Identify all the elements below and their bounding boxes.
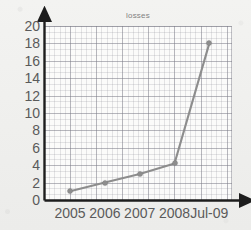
data-point-marker — [68, 189, 73, 194]
x-tick-label: Jul-09 — [190, 205, 228, 221]
x-tick-label: 2006 — [89, 205, 120, 221]
y-tick-label: 16 — [6, 53, 40, 69]
losses-line-chart: losses 20181614121086420 200520062007200… — [0, 0, 251, 230]
x-tick-label: 2005 — [55, 205, 86, 221]
y-tick-label: 20 — [6, 18, 40, 34]
y-tick-label: 0 — [6, 192, 40, 208]
x-tick-label: 2008 — [159, 205, 190, 221]
x-tick-label: 2007 — [124, 205, 155, 221]
data-point-marker — [102, 180, 107, 185]
y-tick-label: 8 — [6, 122, 40, 138]
chart-title: losses — [44, 11, 232, 20]
data-point-marker — [207, 41, 212, 46]
y-tick-label: 4 — [6, 157, 40, 173]
y-tick-label: 18 — [6, 35, 40, 51]
data-point-marker — [172, 161, 177, 166]
data-point-marker — [137, 171, 142, 176]
losses-data-points — [44, 26, 232, 200]
y-tick-label: 6 — [6, 140, 40, 156]
y-tick-label: 10 — [6, 105, 40, 121]
y-tick-label: 12 — [6, 88, 40, 104]
y-tick-label: 2 — [6, 175, 40, 191]
y-tick-label: 14 — [6, 70, 40, 86]
cropped-header-text — [6, 0, 126, 6]
